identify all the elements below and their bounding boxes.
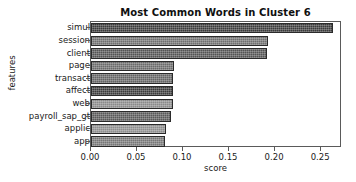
y-tick-mark xyxy=(86,27,90,28)
y-tick-mark xyxy=(86,65,90,66)
y-tick-mark xyxy=(86,40,90,41)
x-tick-label: 0.05 xyxy=(127,152,146,162)
chart-title: Most Common Words in Cluster 6 xyxy=(90,7,341,18)
x-tick-label: 0.20 xyxy=(265,152,284,162)
y-tick-mark xyxy=(86,78,90,79)
y-tick-mark xyxy=(86,116,90,117)
y-tick-label: payroll_sap_gt xyxy=(29,111,90,121)
y-tick-label: transact xyxy=(55,73,90,83)
y-tick-mark xyxy=(86,141,90,142)
y-axis-ticks: simulsessionclientpagetransactaffectwebp… xyxy=(0,21,356,147)
x-tick-mark xyxy=(320,147,321,151)
y-tick-mark xyxy=(86,103,90,104)
x-tick-mark xyxy=(90,147,91,151)
chart-figure: Most Common Words in Cluster 6 simulsess… xyxy=(0,0,356,182)
x-tick-label: 0.10 xyxy=(173,152,192,162)
x-tick-mark xyxy=(274,147,275,151)
x-tick-label: 0.25 xyxy=(311,152,330,162)
y-tick-mark xyxy=(86,53,90,54)
y-axis-label: features xyxy=(7,43,17,103)
x-tick-label: 0.00 xyxy=(81,152,100,162)
y-tick-mark xyxy=(86,90,90,91)
x-tick-mark xyxy=(228,147,229,151)
y-tick-mark xyxy=(86,128,90,129)
x-tick-mark xyxy=(136,147,137,151)
x-axis-label: score xyxy=(90,163,341,173)
x-tick-label: 0.15 xyxy=(219,152,238,162)
x-tick-mark xyxy=(182,147,183,151)
